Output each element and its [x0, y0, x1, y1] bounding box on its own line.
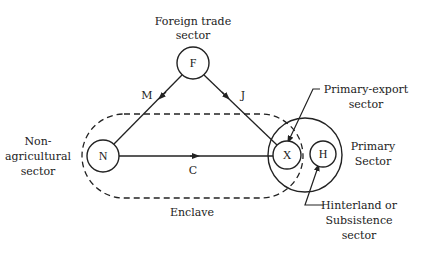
- sector-diagram: F N X H Foreign trade sector Non- agricu…: [0, 0, 422, 257]
- svg-text:N: N: [99, 149, 108, 163]
- svg-text:H: H: [319, 147, 328, 161]
- edge-label-j: J: [240, 89, 245, 102]
- edge-label-m: M: [141, 89, 152, 102]
- label-enclave: Enclave: [170, 206, 214, 219]
- edge-label-c: C: [189, 164, 197, 177]
- edge-m: [114, 75, 182, 144]
- edge-j: [204, 75, 277, 145]
- svg-text:X: X: [283, 148, 292, 162]
- edge-m-arrow: [161, 92, 166, 97]
- label-hinterland-2: Subsistence: [325, 214, 392, 227]
- label-hinterland-1: Hinterland or: [321, 199, 398, 212]
- label-primary-export-2: sector: [349, 98, 384, 111]
- edge-j-arrow: [222, 92, 227, 97]
- label-hinterland-3: sector: [342, 229, 377, 242]
- label-non-agri-2: agricultural: [5, 150, 71, 163]
- label-non-agri-3: sector: [21, 165, 56, 178]
- label-primary-sector-1: Primary: [351, 140, 396, 153]
- node-h: H: [310, 141, 336, 167]
- label-non-agri-1: Non-: [24, 135, 51, 148]
- node-n: N: [87, 140, 119, 172]
- svg-text:F: F: [190, 56, 197, 70]
- label-primary-export-1: Primary-export: [324, 83, 409, 96]
- label-foreign-trade-1: Foreign trade: [155, 15, 231, 28]
- node-f: F: [177, 47, 209, 79]
- label-primary-sector-2: Sector: [355, 155, 392, 168]
- label-foreign-trade-2: sector: [176, 29, 211, 42]
- node-x: X: [273, 141, 301, 169]
- leader-primary-export: [289, 89, 320, 140]
